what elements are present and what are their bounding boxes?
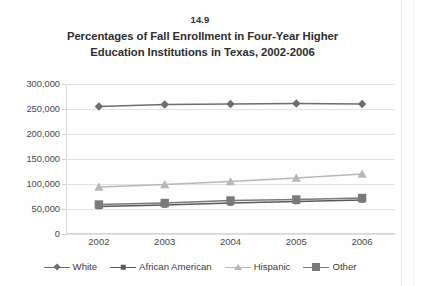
legend-label: African American bbox=[139, 262, 212, 272]
square-marker-icon bbox=[312, 263, 320, 271]
page-edge-divider bbox=[401, 0, 402, 286]
x-axis-tick-label: 2005 bbox=[286, 236, 307, 247]
figure-number: 14.9 bbox=[0, 14, 400, 25]
data-point-marker bbox=[95, 200, 103, 208]
data-point-marker bbox=[161, 100, 169, 108]
y-axis-tick-label: 50,000 bbox=[0, 204, 60, 214]
series-hispanic bbox=[94, 169, 366, 190]
y-axis-tick-label: 200,000 bbox=[0, 129, 60, 139]
data-series-layer bbox=[66, 84, 395, 234]
x-axis-tick-label: 2002 bbox=[88, 236, 109, 247]
legend-item-hispanic[interactable]: Hispanic bbox=[225, 262, 291, 272]
gridline bbox=[66, 234, 395, 235]
y-axis-tick-label: 0 bbox=[0, 229, 60, 239]
page-edge-divider-secondary bbox=[413, 0, 414, 286]
chart-title-line-1: Percentages of Fall Enrollment in Four-Y… bbox=[20, 28, 385, 44]
data-point-marker bbox=[226, 196, 234, 204]
legend-key-icon bbox=[44, 262, 70, 272]
data-point-marker bbox=[226, 100, 234, 108]
triangle-marker-icon bbox=[234, 264, 242, 270]
chart-figure: 14.9 Percentages of Fall Enrollment in F… bbox=[0, 0, 436, 286]
x-axis-tick-label: 2003 bbox=[154, 236, 175, 247]
x-axis-tick-label: 2004 bbox=[220, 236, 241, 247]
legend-item-other[interactable]: Other bbox=[303, 262, 356, 272]
legend-key-icon bbox=[110, 262, 136, 272]
data-point-marker bbox=[95, 102, 103, 110]
legend-item-white[interactable]: White bbox=[44, 262, 98, 272]
x-axis-labels: 20022003200420052006 bbox=[66, 236, 395, 252]
legend-key-icon bbox=[303, 262, 329, 272]
data-point-marker bbox=[358, 194, 366, 202]
legend-label: White bbox=[73, 262, 98, 272]
square-marker-icon bbox=[121, 265, 126, 270]
legend-label: Hispanic bbox=[254, 262, 291, 272]
series-white bbox=[95, 99, 367, 110]
x-axis-tick-label: 2006 bbox=[352, 236, 373, 247]
chart-title: Percentages of Fall Enrollment in Four-Y… bbox=[20, 28, 385, 60]
plot-area bbox=[66, 84, 395, 234]
chart-legend: WhiteAfrican AmericanHispanicOther bbox=[0, 262, 400, 272]
data-point-marker bbox=[161, 199, 169, 207]
legend-label: Other bbox=[332, 262, 356, 272]
y-axis-labels: 050,000100,000150,000200,000250,000300,0… bbox=[0, 84, 60, 234]
legend-key-icon bbox=[225, 262, 251, 272]
data-point-marker bbox=[358, 100, 366, 108]
legend-item-african-american[interactable]: African American bbox=[110, 262, 212, 272]
data-point-marker bbox=[292, 99, 300, 107]
data-point-marker bbox=[292, 195, 300, 203]
diamond-marker-icon bbox=[53, 263, 60, 270]
y-axis-tick-label: 100,000 bbox=[0, 179, 60, 189]
y-axis-tick-label: 250,000 bbox=[0, 104, 60, 114]
y-axis-tick-label: 150,000 bbox=[0, 154, 60, 164]
y-axis-tick-label: 300,000 bbox=[0, 79, 60, 89]
chart-title-line-2: Education Institutions in Texas, 2002-20… bbox=[20, 44, 385, 60]
y-axis-tick bbox=[62, 234, 66, 235]
